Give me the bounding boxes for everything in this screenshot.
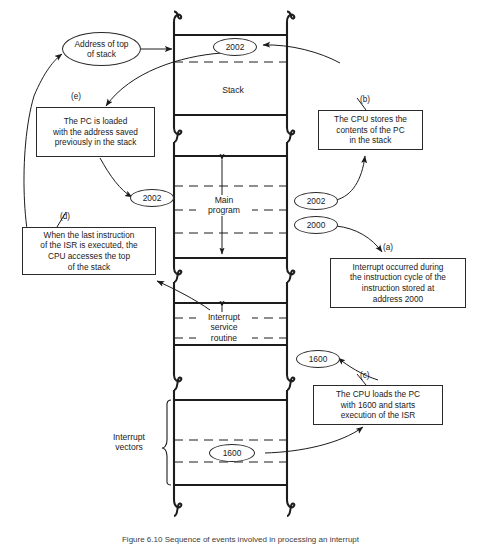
- oval-vector-table-value: 1600: [209, 444, 255, 462]
- oval-current-pc-value: 2000: [294, 216, 338, 234]
- callout-tag-d: (d): [60, 212, 70, 221]
- callout-tag-b: (b): [360, 95, 370, 104]
- arrow-d: [157, 281, 210, 310]
- memory-region-label-isr: Interrupt service routine: [196, 312, 252, 343]
- callout-box-b: The CPU stores the contents of the PC in…: [318, 110, 423, 150]
- callout-box-c: The CPU loads the PC with 1600 and start…: [313, 385, 443, 425]
- interrupt-processing-figure: Stack Main program Interrupt service rou…: [0, 0, 481, 544]
- interrupt-vectors-label: Interrupt vectors: [100, 432, 158, 453]
- arrow-b: [336, 156, 365, 200]
- memory-region-label-main-program: Main program: [196, 195, 252, 216]
- callout-box-d: When the last instruction of the ISR is …: [22, 227, 156, 275]
- oval-saved-pc-value: 2002: [294, 192, 338, 210]
- interrupt-vectors-brace: [162, 400, 171, 485]
- memory-dashed-separators: [174, 62, 287, 462]
- oval-stack-top-value: 2002: [213, 38, 257, 56]
- callout-tag-c: (c): [360, 371, 370, 380]
- oval-restored-pc-value: 2002: [130, 189, 174, 207]
- callout-tag-e: (e): [71, 92, 81, 101]
- arrow-a: [336, 226, 382, 252]
- figure-caption: Figure 6.10 Sequence of events involved …: [0, 535, 481, 544]
- oval-isr-vector-value: 1600: [296, 350, 340, 368]
- arrow-store-pc-to-stack: [263, 45, 340, 63]
- memory-region-label-stack: Stack: [198, 85, 268, 95]
- oval-address-of-top-of-stack: Address of top of stack: [62, 32, 141, 66]
- callout-tag-a: (a): [383, 243, 393, 252]
- callout-box-e: The PC is loaded with the address saved …: [36, 107, 155, 157]
- callout-box-a: Interrupt occurred during the instructio…: [330, 258, 466, 308]
- arrow-e-to-pc-value: [100, 158, 132, 197]
- arrow-c-load-pc: [338, 358, 378, 380]
- memory-solid-separators: [174, 35, 287, 485]
